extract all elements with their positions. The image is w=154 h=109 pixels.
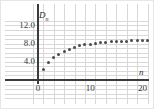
data-point [68, 48, 71, 51]
x-tick-label: 10 [75, 84, 105, 93]
horizontal-gridline [5, 94, 149, 95]
x-axis-line [5, 79, 149, 81]
x-tick-label: 0 [23, 84, 53, 93]
y-axis-label-subscript: n [46, 16, 49, 22]
y-tick-label: 8.0 [24, 39, 35, 48]
y-axis-label: Dn [39, 11, 49, 24]
data-point [125, 40, 128, 43]
horizontal-gridline [5, 30, 149, 31]
data-point [94, 42, 97, 45]
data-point [42, 68, 45, 71]
chart-figure: Dn n 4.08.012.0 01020 [0, 0, 154, 109]
horizontal-gridline [5, 75, 149, 76]
horizontal-gridline [5, 35, 149, 36]
horizontal-gridline [5, 53, 149, 54]
horizontal-gridline [5, 66, 149, 67]
horizontal-gridline [5, 48, 149, 49]
data-point [73, 46, 76, 49]
data-point [115, 40, 118, 43]
data-point [136, 39, 139, 42]
horizontal-gridline [5, 71, 149, 72]
data-point [110, 40, 113, 43]
horizontal-gridline [5, 98, 149, 99]
x-axis-label: n [139, 68, 144, 77]
data-point [63, 50, 66, 53]
y-tick-label: 12.0 [19, 21, 35, 30]
data-point [89, 43, 92, 46]
x-tick-label: 20 [127, 84, 154, 93]
y-tick-label: 4.0 [24, 57, 35, 66]
data-point [120, 40, 123, 43]
